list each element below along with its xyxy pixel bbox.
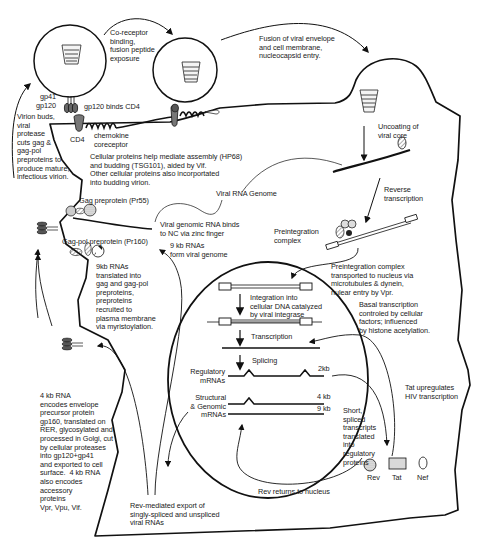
arrow-reverse-transcription xyxy=(366,178,380,222)
label-9kb: 9 kb xyxy=(317,405,331,414)
label-virion-buds: Virion buds, viral protease cuts gag & g… xyxy=(17,113,69,182)
label-gag-preprotein: Gag preprotein (Pr55) xyxy=(79,197,149,206)
label-viral-rna-genome: Viral RNA Genome xyxy=(216,190,277,199)
label-gp120-binds-cd4: gp120 binds CD4 xyxy=(84,103,140,112)
label-fusion: Fusion of viral envelope and cell membra… xyxy=(259,35,335,61)
envelope-spike-membrane-2 xyxy=(62,338,83,350)
nc-rna-line xyxy=(73,218,152,229)
gp120-gp41-spike xyxy=(64,96,77,113)
label-cellular-proteins: Cellular proteins help mediate assembly … xyxy=(90,153,242,187)
arrow-rev-export xyxy=(168,412,188,466)
proviral-dna-1 xyxy=(219,283,312,290)
label-coreceptor-binding: Co-receptor binding, fusion peptide expo… xyxy=(110,29,155,63)
label-viral-genomic-rna-binds: Viral genomic RNA binds to NC via zinc f… xyxy=(160,221,239,238)
envelope-spike-membrane-1 xyxy=(37,222,58,234)
hiv-lifecycle-diagram: Co-receptor binding, fusion peptide expo… xyxy=(0,0,478,552)
cd4-receptor xyxy=(74,115,84,132)
label-2kb: 2kb xyxy=(318,365,330,374)
label-transcription: Transcription xyxy=(251,333,292,342)
label-basal-transcription: Basal transcription controled by cellula… xyxy=(359,301,430,335)
label-preintegration-complex: Preintegration complex xyxy=(274,228,319,245)
tat-protein xyxy=(389,458,406,469)
structural-mrna-4kb xyxy=(228,398,324,404)
label-gp120: gp120 xyxy=(36,102,56,111)
arrow-spike-to-virion2 xyxy=(16,178,26,222)
regulatory-mrna-2kb xyxy=(228,370,324,376)
label-uncoating: Uncoating of viral core xyxy=(378,123,418,140)
label-splicing: Splicing xyxy=(252,357,277,366)
label-integration: Integration into cellular DNA catalyzed … xyxy=(250,294,322,320)
label-rev-export: Rev-mediated export of singly-spliced an… xyxy=(130,502,219,528)
label-short-spliced: Short, spliced transcripts translated in… xyxy=(343,407,376,467)
capsid-icon-1 xyxy=(62,45,81,64)
label-chemokine-coreceptor: chemokine coreceptor xyxy=(94,132,129,149)
label-rev-returns: Rev returns to nucleus xyxy=(258,488,330,497)
nef-protein xyxy=(419,457,427,469)
label-regulatory-mrnas: Regulatory mRNAs xyxy=(170,368,225,385)
chemokine-coreceptor-coil xyxy=(86,124,116,129)
viral-rna-genome-line xyxy=(242,158,342,192)
label-nef: Nef xyxy=(417,474,428,483)
label-structural-mrnas: Structural & Genomic mRNAs xyxy=(170,394,226,420)
label-9kb-form-genome: 9 kb RNAs form viral genome xyxy=(170,242,228,259)
gag-preprotein-graphic xyxy=(66,204,96,216)
label-gagpol-preprotein: Gag-pol preprotein (Pr160) xyxy=(62,238,148,247)
label-tat: Tat xyxy=(392,474,402,483)
label-pic-transported: Preintegration complex transported to nu… xyxy=(331,263,413,297)
preintegration-complex-dna xyxy=(326,214,418,249)
capsid-icon-2 xyxy=(182,62,200,82)
label-cd4: CD4 xyxy=(70,136,84,145)
label-tat-upregulates: Tat upregulates HIV transcription xyxy=(405,384,458,401)
label-4kb: 4 kb xyxy=(317,393,331,402)
viral-rna-strand xyxy=(333,150,410,172)
label-reverse-transcription: Reverse transcription xyxy=(384,186,423,203)
capsid-icon-3 xyxy=(360,90,378,112)
label-4kb-rna: 4 kb RNA encodes envelope precursor prot… xyxy=(40,392,113,512)
arrow-spike-to-virion xyxy=(37,234,50,322)
arrow-env-to-membrane xyxy=(38,255,52,326)
viral-rna-genome-curve xyxy=(155,200,222,222)
label-rev: Rev xyxy=(367,474,380,483)
label-9kb-translated: 9kb RNAs translated into gag and gag-pol… xyxy=(96,263,156,332)
